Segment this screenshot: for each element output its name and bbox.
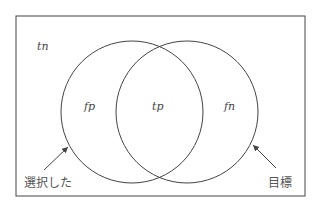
tp-label: tp	[152, 100, 163, 113]
selected-set-circle	[61, 41, 203, 183]
fn-label: fn	[223, 100, 235, 113]
selected-caption: 選択した	[24, 176, 72, 190]
fp-label: fp	[83, 100, 95, 113]
venn-diagram: tn fp tp fn 選択した 目標	[0, 0, 319, 212]
target-set-circle	[116, 41, 258, 183]
target-caption: 目標	[268, 176, 292, 190]
target-arrow	[253, 145, 276, 168]
tn-label: tn	[37, 40, 49, 53]
selected-arrow	[44, 147, 68, 170]
